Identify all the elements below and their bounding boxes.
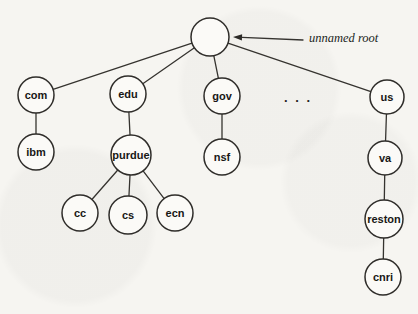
node-label-ibm: ibm [26, 146, 46, 158]
node-label-cnri: cnri [373, 271, 393, 283]
edge-us-va [386, 114, 387, 141]
node-label-nsf: nsf [214, 151, 231, 163]
node-label-purdue: purdue [112, 149, 149, 161]
edge-purdue-cs [129, 175, 130, 196]
edge-root-gov [214, 56, 219, 79]
edge-root-edu [143, 48, 195, 84]
node-label-edu: edu [118, 88, 138, 100]
node-label-cc: cc [74, 207, 86, 219]
annotation-arrow-head [233, 34, 242, 40]
dns-hierarchy-figure: comedugovusibmpurduensfvacccsecnrestoncn… [0, 0, 418, 314]
node-label-va: va [379, 152, 392, 164]
annotation-arrow-line [242, 37, 303, 40]
edge-edu-purdue [129, 112, 130, 135]
node-label-cs: cs [122, 209, 134, 221]
node-label-gov: gov [212, 90, 232, 102]
node-label-us: us [381, 91, 394, 103]
annotation-unnamed-root-label: unnamed root [309, 31, 379, 45]
node-label-reston: reston [367, 213, 401, 225]
ellipsis-dots: . . . [284, 90, 312, 105]
edge-root-us [228, 43, 371, 91]
node-circle-root [191, 18, 229, 56]
edge-purdue-cc [92, 170, 118, 199]
edge-purdue-ecn [143, 171, 164, 199]
node-label-com: com [25, 89, 48, 101]
node-label-ecn: ecn [166, 207, 185, 219]
dns-tree-svg: comedugovusibmpurduensfvacccsecnrestoncn… [0, 0, 418, 314]
